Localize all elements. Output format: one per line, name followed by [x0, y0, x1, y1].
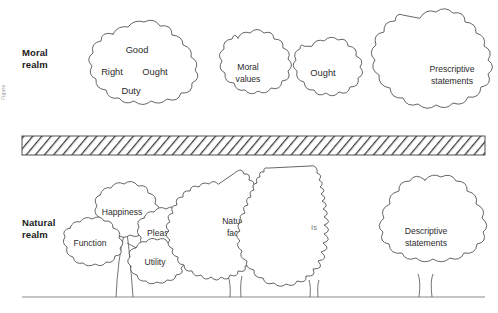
- tree-descriptive-label-1: Descriptive: [405, 226, 448, 236]
- cloud-virtues-label-ought: Ought: [142, 67, 168, 77]
- hatched-barrier-rect: [22, 136, 485, 155]
- cloud-prescriptive-label-1: Prescriptive: [430, 64, 475, 74]
- tree-descriptive-label-2: statements: [405, 238, 447, 248]
- tree-natural-facts-trunk: [228, 276, 242, 297]
- canopy-function-label: Function: [74, 238, 107, 248]
- cloud-ought: Ought: [293, 37, 362, 96]
- cloud-moral-values-label-1: Moral: [237, 62, 259, 72]
- cloud-virtues-label-duty: Duty: [121, 86, 140, 96]
- hatched-barrier: [22, 136, 485, 155]
- diagram-svg: Good Right Ought Duty Moral values Ought…: [0, 0, 498, 313]
- cloud-prescriptive-label-2: statements: [431, 76, 473, 86]
- tree-descriptive-canopy: [379, 175, 487, 262]
- canopy-utility-label: Utility: [144, 257, 166, 267]
- cloud-ought-label: Ought: [310, 68, 336, 78]
- cloud-virtues-outline: [89, 20, 198, 104]
- figure-canvas: Figure Moral realm Natural realm Good Ri…: [0, 0, 498, 313]
- cloud-virtues: Good Right Ought Duty: [89, 20, 198, 104]
- tree-descriptive-trunk: [418, 274, 433, 297]
- cloud-moral-values: Moral values: [219, 30, 291, 94]
- tree-is-label: Is: [311, 223, 317, 232]
- canopy-happiness-label: Happiness: [102, 207, 143, 217]
- cloud-prescriptive-outline: [371, 9, 492, 109]
- tree-descriptive-statements: Descriptive statements: [379, 175, 487, 297]
- cloud-prescriptive-statements: Prescriptive statements: [371, 9, 492, 109]
- cloud-moral-values-label-2: values: [236, 74, 261, 84]
- cloud-ought-outline: [293, 37, 362, 96]
- cloud-virtues-label-right: Right: [101, 67, 123, 77]
- cloud-virtues-label-good: Good: [126, 45, 149, 55]
- tree-is-trunk: [309, 280, 319, 297]
